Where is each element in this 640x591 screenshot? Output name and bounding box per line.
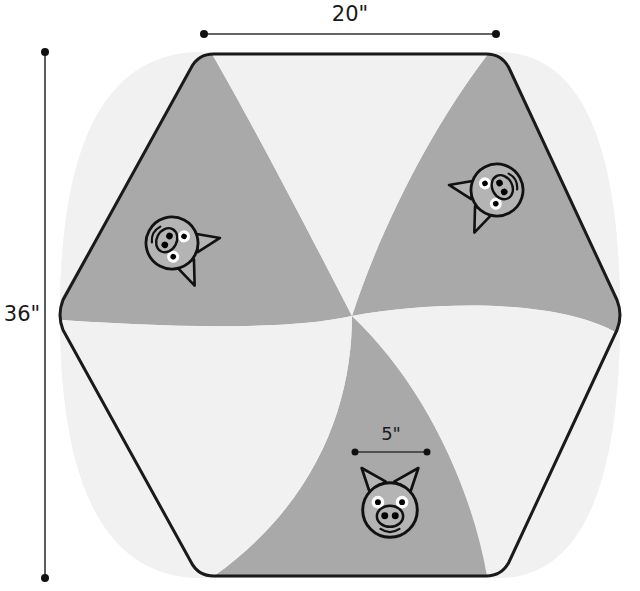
dimension-height-endpoint-top bbox=[41, 48, 49, 56]
dimension-height-endpoint-bottom bbox=[41, 574, 49, 582]
dimension-pig-label: 5" bbox=[381, 423, 401, 444]
diagram-stage: 20" 36" 5" bbox=[0, 0, 640, 591]
dimension-width-endpoint-left bbox=[200, 30, 208, 38]
dimension-height-label: 36" bbox=[4, 302, 40, 326]
dimension-width-endpoint-right bbox=[492, 30, 500, 38]
dimension-pig-endpoint-left bbox=[352, 449, 359, 456]
quilt-block-diagram: 20" 36" 5" bbox=[0, 0, 640, 591]
pinwheel-final bbox=[0, 0, 640, 591]
dimension-height: 36" bbox=[4, 48, 49, 582]
hexagon-block bbox=[0, 0, 640, 591]
dimension-width: 20" bbox=[200, 2, 500, 38]
dimension-pig-endpoint-right bbox=[424, 449, 431, 456]
dimension-width-label: 20" bbox=[332, 2, 368, 26]
